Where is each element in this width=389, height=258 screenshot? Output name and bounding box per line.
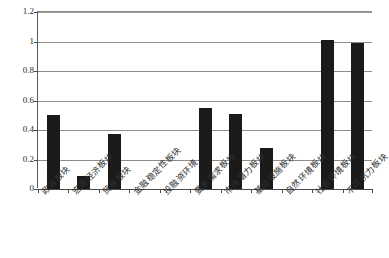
- x-axis-category-labels: 政治板块宏观经济板块贸易板块金融稳定性板块投融资环境要素需求板块市场潜力板块基础…: [37, 190, 378, 258]
- bar: [351, 43, 364, 189]
- y-axis-tick-label: 0.4: [4, 125, 34, 134]
- y-axis-tick-label: 1: [4, 37, 34, 46]
- y-axis-tick-label: 0.6: [4, 96, 34, 105]
- y-axis-tick-label: 1.2: [4, 7, 34, 16]
- y-axis-tick-label: 0: [4, 184, 34, 193]
- y-axis-tick-label: 0.2: [4, 155, 34, 164]
- bar: [321, 40, 334, 189]
- y-axis-tick-labels: 00.20.40.60.811.2: [0, 0, 34, 258]
- y-axis-tick-label: 0.8: [4, 66, 34, 75]
